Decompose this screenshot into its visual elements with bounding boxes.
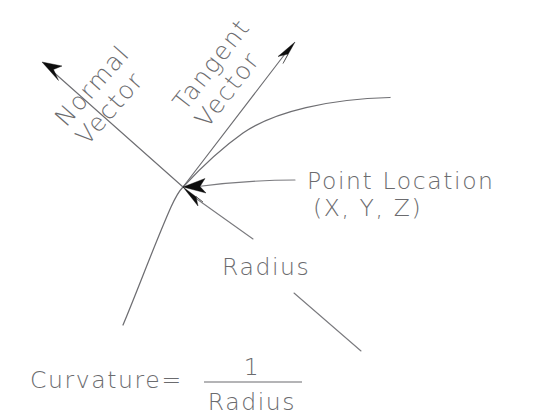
point-location-label-line1: Point Location: [307, 167, 495, 195]
point-location-label-line2: (X, Y, Z): [313, 194, 422, 222]
normal-vector-label-group: Normal Vector: [49, 39, 157, 150]
curvature-numerator: 1: [244, 353, 261, 381]
diagram-canvas: Normal Vector Tangent Vector Point Locat…: [0, 0, 542, 420]
curvature-formula-lhs: Curvature=: [30, 366, 183, 394]
radius-label: Radius: [222, 253, 310, 281]
tangent-vector-label-group: Tangent Vector: [167, 13, 278, 133]
point-location-leader-line: [198, 180, 295, 187]
radius-leader-line-lower: [294, 293, 361, 351]
curve-geometry-diagram: Normal Vector Tangent Vector Point Locat…: [0, 0, 542, 420]
curvature-denominator: Radius: [208, 388, 296, 416]
radius-leader-line-upper: [194, 197, 253, 239]
